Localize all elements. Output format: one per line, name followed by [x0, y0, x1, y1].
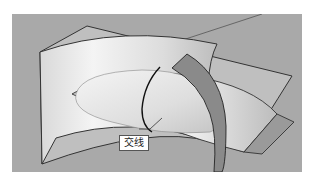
callout-label: 交线	[124, 137, 144, 148]
surfaces-drawing	[12, 14, 302, 172]
3d-viewport: 交线	[12, 14, 302, 172]
intersection-callout: 交线	[119, 135, 149, 151]
